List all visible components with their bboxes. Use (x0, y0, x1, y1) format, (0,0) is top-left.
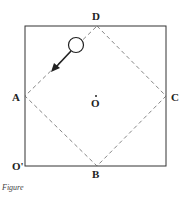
label-o-prime: O' (12, 160, 24, 172)
label-d: D (92, 10, 100, 22)
label-o: O (91, 97, 100, 109)
velocity-arrow-shaft (56, 51, 71, 67)
label-c: C (171, 91, 179, 103)
figure-caption: Figure (2, 183, 23, 192)
label-a: A (12, 91, 20, 103)
label-b: B (92, 168, 99, 180)
ball-icon (69, 38, 84, 53)
